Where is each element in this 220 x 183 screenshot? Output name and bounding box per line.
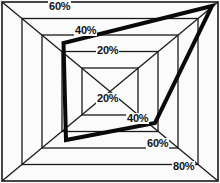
tick-label-lower-80: 80% <box>172 161 195 172</box>
tick-label-lower-60: 60% <box>146 138 169 149</box>
tick-label-upper-40: 40% <box>74 25 97 36</box>
tick-label-upper-20: 20% <box>96 45 119 56</box>
tick-label-lower-20: 20% <box>96 93 119 104</box>
tick-label-upper-60: 60% <box>48 1 71 12</box>
tick-label-lower-40: 40% <box>126 113 149 124</box>
radar-chart: 60% 40% 20% 20% 40% 60% 80% <box>0 0 220 183</box>
